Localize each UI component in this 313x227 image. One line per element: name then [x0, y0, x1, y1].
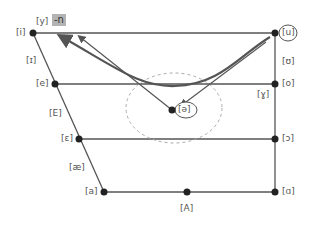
curved-arrow — [62, 37, 270, 86]
label-o: [o] — [282, 79, 295, 88]
label-U: [ʊ] — [282, 57, 295, 66]
label-y: [y] — [36, 17, 48, 26]
point-o — [272, 81, 279, 88]
vowel-trapezoid — [0, 0, 313, 227]
label-schwa: [ə] — [178, 105, 191, 114]
tag-n: -n — [52, 14, 66, 26]
label-i: [i] — [16, 28, 26, 37]
label-u: [u] — [282, 28, 295, 37]
label-gamma: [ɣ] — [257, 90, 269, 99]
label-ae: [æ] — [69, 163, 85, 172]
point-e — [52, 81, 59, 88]
label-epsilon: [ɛ] — [61, 134, 73, 143]
point-u — [272, 30, 279, 37]
point-open-o — [272, 136, 279, 143]
label-a: [a] — [85, 187, 98, 196]
label-e: [e] — [36, 79, 49, 88]
label-alpha: [ɑ] — [282, 187, 295, 196]
label-E: [E] — [49, 109, 62, 118]
vowel-chart: [i] [y] -n [u] [ɪ] [ʊ] [e] [o] [ɣ] [E] [… — [0, 0, 313, 227]
point-a — [101, 189, 108, 196]
label-A: [A] — [180, 204, 193, 213]
point-alpha — [272, 189, 279, 196]
label-I: [ɪ] — [26, 56, 36, 65]
point-i — [30, 30, 37, 37]
point-epsilon — [76, 136, 83, 143]
label-open-o: [ɔ] — [282, 134, 294, 143]
arrow-schwa-to-i — [80, 37, 172, 110]
arrow-u-to-schwa — [182, 42, 266, 105]
point-schwa — [169, 107, 176, 114]
point-A — [184, 189, 191, 196]
